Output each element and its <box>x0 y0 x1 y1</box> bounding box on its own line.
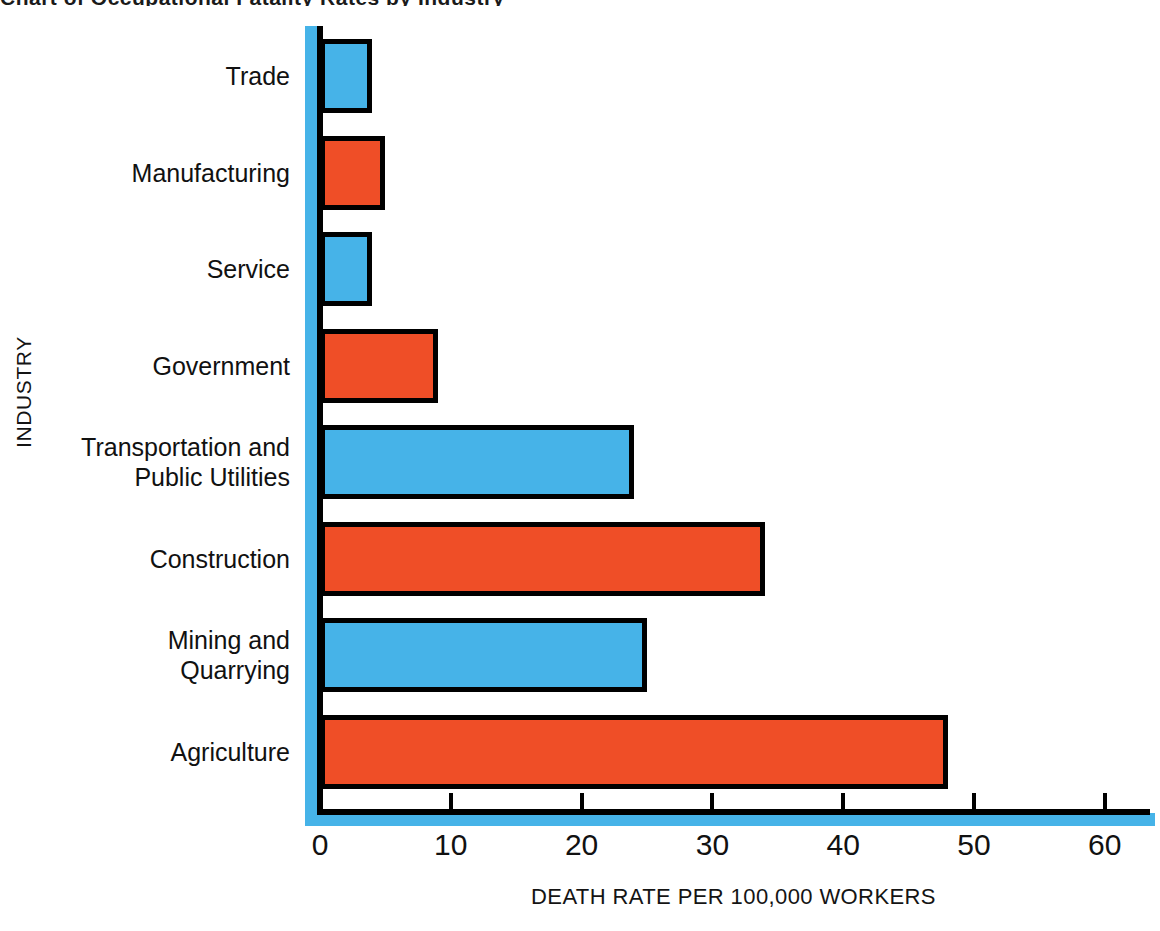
bar-government <box>320 329 438 403</box>
category-label: Transportation and Public Utilities <box>0 432 290 492</box>
category-label: Manufacturing <box>0 158 290 188</box>
category-label: Service <box>0 254 290 284</box>
x-tick-mark <box>841 793 845 809</box>
bar-manufacturing <box>320 136 385 210</box>
category-label-wrap: Construction <box>0 544 290 574</box>
category-label-wrap: Manufacturing <box>0 158 290 188</box>
x-tick-label: 50 <box>957 828 990 862</box>
x-tick-mark <box>580 793 584 809</box>
category-label-wrap: Transportation and Public Utilities <box>0 432 290 492</box>
category-label-wrap: Government <box>0 351 290 381</box>
bar-agriculture <box>320 715 948 789</box>
bar-service <box>320 232 372 306</box>
x-tick-mark <box>449 793 453 809</box>
x-tick-label: 0 <box>312 828 329 862</box>
x-tick-mark <box>710 793 714 809</box>
x-tick-mark <box>318 793 322 809</box>
category-label-wrap: Service <box>0 254 290 284</box>
x-tick-mark <box>1103 793 1107 809</box>
bar-trade <box>320 39 372 113</box>
x-axis-title: DEATH RATE PER 100,000 WORKERS <box>317 884 1150 910</box>
x-tick-label: 60 <box>1088 828 1121 862</box>
category-label: Agriculture <box>0 737 290 767</box>
category-label: Government <box>0 351 290 381</box>
x-axis-line <box>317 809 1150 815</box>
category-label: Construction <box>0 544 290 574</box>
category-label-wrap: Trade <box>0 61 290 91</box>
category-label: Mining and Quarrying <box>0 625 290 685</box>
x-tick-label: 20 <box>565 828 598 862</box>
bar-construction <box>320 522 765 596</box>
bar-transportation-and-public-utilities <box>320 425 634 499</box>
x-tick-label: 30 <box>696 828 729 862</box>
x-tick-label: 10 <box>434 828 467 862</box>
category-label: Trade <box>0 61 290 91</box>
bar-chart-figure: Chart of Occupational Fatality Rates by … <box>0 0 1160 931</box>
x-tick-mark <box>972 793 976 809</box>
plot-area: TradeManufacturingServiceGovernmentTrans… <box>0 0 1160 931</box>
category-label-wrap: Agriculture <box>0 737 290 767</box>
bar-mining-and-quarrying <box>320 618 647 692</box>
category-label-wrap: Mining and Quarrying <box>0 625 290 685</box>
x-tick-label: 40 <box>827 828 860 862</box>
